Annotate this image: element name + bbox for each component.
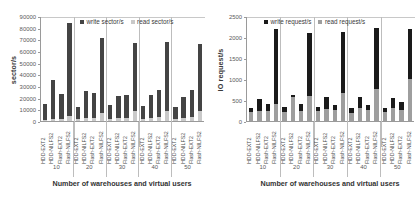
group-separator <box>73 122 74 177</box>
io-request-chart: IO request/s 05001000150020002500 HDD-EX… <box>208 0 416 202</box>
bar-segment-read <box>391 108 395 121</box>
bar-slot <box>98 17 106 121</box>
bar-segment-read <box>181 118 185 122</box>
stacked-bar[interactable] <box>408 29 412 121</box>
stacked-bar[interactable] <box>291 95 295 121</box>
bar-segment-read <box>108 119 112 121</box>
bar-slot <box>280 17 288 121</box>
stacked-bar[interactable] <box>116 96 120 121</box>
bar-segment-read <box>133 111 137 121</box>
bar-segment-read <box>249 112 253 121</box>
stacked-bar[interactable] <box>157 90 161 121</box>
stacked-bar[interactable] <box>257 99 261 121</box>
y-tick-label: 20000 <box>20 96 36 102</box>
bar-groups <box>247 17 414 121</box>
stacked-bar[interactable] <box>165 42 169 121</box>
bar-slot <box>364 17 372 121</box>
legend-item: write request/s <box>264 18 311 25</box>
stacked-bar[interactable] <box>274 29 278 121</box>
stacked-bar[interactable] <box>391 98 395 121</box>
x-category-label: Flash-EXT2 <box>188 136 194 164</box>
stacked-bar[interactable] <box>324 97 328 121</box>
stacked-bar[interactable] <box>67 23 71 121</box>
y-tick-label: 80000 <box>20 26 36 32</box>
stacked-bar[interactable] <box>399 102 403 121</box>
bar-segment-read <box>76 119 80 121</box>
x-category-label: Flash-NILFS2 <box>339 131 345 164</box>
stacked-bar[interactable] <box>374 28 378 121</box>
x-category-label: HDD-NILFS2 <box>288 133 294 164</box>
group-label: 20 <box>280 164 314 170</box>
stacked-bar[interactable] <box>190 90 194 121</box>
x-axis-category-labels: HDD-EXT2HDD-NILFS2Flash-EXT2Flash-NILFS2… <box>40 122 204 164</box>
stacked-bar[interactable] <box>383 108 387 121</box>
stacked-bar[interactable] <box>149 95 153 121</box>
bar-segment-write <box>358 97 362 108</box>
stacked-bar[interactable] <box>100 38 104 121</box>
bar-segment-read <box>92 118 96 121</box>
stacked-bar[interactable] <box>76 107 80 121</box>
stacked-bar[interactable] <box>43 104 47 121</box>
bar-slot <box>155 17 163 121</box>
bar-segment-write <box>190 90 194 117</box>
bar-slot <box>106 17 114 121</box>
stacked-bar[interactable] <box>141 106 145 121</box>
plot-area <box>246 17 414 122</box>
bar-segment-read <box>116 118 120 121</box>
stacked-bar[interactable] <box>181 97 185 121</box>
bar-group <box>171 17 204 121</box>
stacked-bar[interactable] <box>198 44 202 121</box>
y-tick-label: 60000 <box>20 49 36 55</box>
bar-group <box>41 17 74 121</box>
stacked-bar[interactable] <box>133 43 137 121</box>
stacked-bar[interactable] <box>307 33 311 121</box>
stacked-bar[interactable] <box>59 94 63 121</box>
stacked-bar[interactable] <box>124 95 128 121</box>
bar-slot <box>289 17 297 121</box>
stacked-bar[interactable] <box>366 105 370 121</box>
bar-slot <box>264 17 272 121</box>
x-category-label: HDD-NILFS2 <box>389 133 395 164</box>
legend-item: write sector/s <box>80 18 124 25</box>
legend-label: write sector/s <box>87 18 124 25</box>
bar-segment-read <box>84 118 88 121</box>
bar-segment-read <box>157 117 161 121</box>
stacked-bar[interactable] <box>51 80 55 121</box>
group-separator <box>347 122 348 177</box>
bar-segment-write <box>391 98 395 109</box>
stacked-bar[interactable] <box>249 108 253 121</box>
bar-segment-read <box>282 112 286 121</box>
stacked-bar[interactable] <box>92 93 96 121</box>
stacked-bar[interactable] <box>266 104 270 121</box>
y-tick-label: 500 <box>232 98 242 104</box>
stacked-bar[interactable] <box>349 108 353 121</box>
bar-slot <box>114 17 122 121</box>
bar-segment-read <box>43 120 47 121</box>
bar-slot <box>272 17 280 121</box>
bar-segment-read <box>141 119 145 121</box>
bar-group <box>74 17 107 121</box>
stacked-bar[interactable] <box>316 107 320 121</box>
group-separator <box>313 122 314 177</box>
x-category-label: HDD-EXT2 <box>347 138 353 165</box>
bar-segment-read <box>274 104 278 121</box>
bar-segment-read <box>374 89 378 121</box>
legend-label: write request/s <box>271 18 312 25</box>
bar-slot <box>331 17 339 121</box>
bar-segment-write <box>51 80 55 119</box>
bar-segment-read <box>173 119 177 121</box>
y-tick-label: 2500 <box>229 14 242 20</box>
stacked-bar[interactable] <box>358 97 362 121</box>
stacked-bar[interactable] <box>299 104 303 121</box>
x-category-label: HDD-NILFS2 <box>355 133 361 164</box>
stacked-bar[interactable] <box>84 91 88 121</box>
stacked-bar[interactable] <box>108 105 112 121</box>
stacked-bar[interactable] <box>173 107 177 121</box>
x-category-label: Flash-EXT2 <box>297 136 303 164</box>
legend-swatch-icon <box>80 20 84 24</box>
stacked-bar[interactable] <box>341 32 345 121</box>
bar-segment-read <box>257 111 261 122</box>
stacked-bar[interactable] <box>333 105 337 121</box>
group-label: 30 <box>106 164 139 170</box>
stacked-bar[interactable] <box>282 107 286 121</box>
